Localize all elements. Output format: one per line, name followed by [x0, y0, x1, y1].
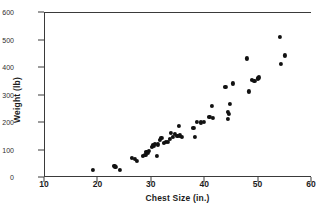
x-tick-label: 10: [31, 180, 57, 189]
y-tick-label: 600: [0, 9, 14, 16]
data-point: [135, 159, 139, 163]
data-point: [231, 81, 235, 85]
data-point: [226, 117, 230, 121]
data-point: [118, 168, 122, 172]
data-point: [202, 120, 206, 124]
x-tick-label: 50: [245, 180, 271, 189]
data-point: [155, 154, 159, 158]
data-point: [176, 124, 180, 128]
data-point: [245, 56, 249, 60]
data-point: [257, 75, 261, 79]
scatter-chart-figure: 0100200300400500600 102030405060 Weight …: [0, 0, 328, 213]
data-point: [192, 135, 196, 139]
data-point: [91, 168, 95, 172]
data-point: [228, 102, 232, 106]
y-tick-label: 500: [0, 36, 14, 43]
data-point: [223, 85, 227, 89]
data-point: [156, 142, 160, 146]
data-point: [180, 135, 184, 139]
data-point: [279, 62, 283, 66]
plot-area-frame: [44, 12, 311, 177]
x-tick-label: 60: [298, 180, 324, 189]
x-tick-label: 30: [138, 180, 164, 189]
data-point: [278, 35, 282, 39]
data-point: [247, 89, 251, 93]
y-tick-mark: [38, 67, 44, 68]
data-point: [210, 104, 214, 108]
x-axis-title: Chest Size (in.): [44, 193, 311, 203]
y-tick-label: 100: [0, 146, 14, 153]
data-points-layer: [45, 13, 311, 176]
y-tick-label: 0: [0, 174, 14, 181]
data-point: [227, 112, 231, 116]
y-tick-mark: [38, 149, 44, 150]
x-tick-label: 20: [84, 180, 110, 189]
data-point: [211, 115, 215, 119]
y-axis-title: Weight (lb): [12, 55, 22, 145]
data-point: [191, 126, 195, 130]
y-tick-mark: [38, 122, 44, 123]
y-tick-mark: [38, 12, 44, 13]
y-tick-mark: [38, 94, 44, 95]
x-tick-label: 40: [191, 180, 217, 189]
y-tick-mark: [38, 39, 44, 40]
data-point: [283, 53, 287, 57]
